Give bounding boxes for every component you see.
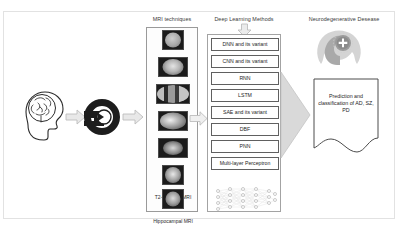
dl-method-dnn[interactable]: DNN and its variant — [211, 38, 279, 51]
mri-section-title: MRI techniques — [146, 16, 198, 22]
rsmri-multi-panel-scan-thumbnail — [156, 84, 190, 104]
3dmri-sagittal-scan-thumbnail — [158, 111, 188, 131]
4dmri-scan-thumbnail — [158, 138, 188, 158]
deep-learning-section-title: Deep Learning Methods — [200, 16, 288, 22]
dl-method-mlp[interactable]: Multi-layer Perceptron — [211, 157, 279, 170]
arrow-scanner-to-mri — [123, 109, 144, 125]
mri-scanner-icon — [82, 97, 122, 137]
head-with-brain-icon — [14, 86, 72, 144]
deep-learning-methods-panel: DNN and its variant CNN and its variant … — [207, 34, 281, 212]
disease-section-title: Neurodegenerative Desease — [294, 16, 394, 22]
neural-network-nodes-diagram — [212, 187, 278, 211]
fmri-axial-scan-thumbnail — [162, 30, 184, 50]
mri-item-6[interactable]: Hippocampal MRI — [147, 189, 199, 227]
smri-axial-scan-thumbnail — [158, 57, 188, 77]
arrow-mri-to-deep-learning — [190, 111, 208, 126]
prediction-output-text: Prediction and classification of AD, SZ,… — [316, 93, 376, 115]
mri-item-label: Hippocampal MRI — [153, 218, 193, 224]
dl-method-lstm[interactable]: LSTM — [211, 89, 279, 102]
dl-method-sae[interactable]: SAE and its variant — [211, 106, 279, 119]
arrow-deep-learning-to-disease — [281, 72, 311, 158]
t2-weighted-scan-thumbnail — [162, 165, 184, 185]
dl-method-dbf[interactable]: DBF — [211, 123, 279, 136]
dl-method-cnn[interactable]: CNN and its variant — [211, 55, 279, 68]
prediction-output-box — [313, 78, 379, 156]
dl-method-rnn[interactable]: RNN — [211, 72, 279, 85]
dl-method-pnn[interactable]: PNN — [211, 140, 279, 153]
hippocampal-scan-thumbnail — [162, 189, 184, 209]
head-with-medical-cross-icon — [313, 26, 365, 68]
figure-canvas: MRI techniques Deep Learning Methods Neu… — [0, 0, 400, 230]
